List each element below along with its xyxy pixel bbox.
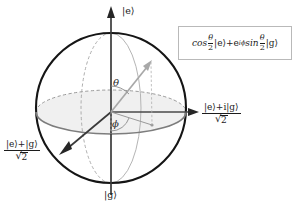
formula-plus: + [226, 38, 234, 48]
axis-label-y: |e⟩+|g⟩ √ 2 [4, 140, 40, 162]
formula-two-1: 2 [208, 44, 213, 52]
axis-z-arrowhead [107, 6, 115, 18]
sqrt-icon: √ [15, 151, 21, 162]
sqrt-icon: √ [215, 114, 221, 125]
formula-theta-2: θ [260, 34, 265, 42]
axis-x-fraction: |e⟩+i|g⟩ √ 2 [202, 103, 241, 125]
axis-y-fraction: |e⟩+|g⟩ √ 2 [4, 140, 40, 162]
axis-x-sqrt: √ 2 [215, 115, 228, 126]
axis-x-numerator: |e⟩+i|g⟩ [202, 103, 241, 113]
formula-ket-e: |e⟩ [214, 38, 226, 48]
angle-label-phi: ϕ [112, 119, 119, 129]
bloch-sphere-figure: |e⟩ |g⟩ θ ϕ |e⟩+i|g⟩ √ 2 |e⟩+|g⟩ √ 2 [0, 0, 302, 211]
formula-two-2: 2 [260, 44, 265, 52]
axis-x-denominator-wrap: √ 2 [202, 114, 241, 125]
formula-cos: cos [192, 38, 207, 48]
axis-x-arrowhead [188, 108, 199, 116]
axis-label-x: |e⟩+i|g⟩ √ 2 [202, 103, 241, 125]
axis-y-sqrt: √ 2 [15, 152, 28, 163]
state-formula-text: cos θ 2 |e⟩ + e iϕ sin θ 2 |g⟩ [192, 34, 278, 52]
axis-y-numerator: |e⟩+|g⟩ [4, 140, 40, 150]
axis-y-denominator-wrap: √ 2 [4, 151, 40, 162]
pole-label-ground: |g⟩ [104, 190, 117, 200]
axis-y-arrowhead [59, 141, 72, 155]
angle-label-theta: θ [113, 78, 119, 88]
formula-theta-1: θ [208, 34, 213, 42]
formula-theta-over-two-second: θ 2 [260, 34, 265, 52]
formula-sin: sin [245, 38, 258, 48]
formula-theta-over-two-first: θ 2 [208, 34, 213, 52]
formula-ket-g: |g⟩ [266, 38, 278, 48]
state-formula-box: cos θ 2 |e⟩ + e iϕ sin θ 2 |g⟩ [178, 26, 292, 60]
pole-label-excited: |e⟩ [122, 6, 135, 16]
